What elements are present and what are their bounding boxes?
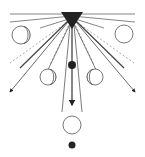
moon-phase-upper-right-icon — [115, 25, 133, 43]
dot-bottom-icon — [69, 142, 76, 149]
dot-middle-icon — [68, 61, 76, 69]
moon-phase-upper-left-icon — [12, 26, 30, 44]
open-circle-bottom-icon — [63, 116, 81, 134]
ray-diagram — [0, 0, 145, 157]
diagram-canvas — [0, 0, 145, 157]
moon-phase-lower-left-icon — [40, 69, 56, 85]
moon-phase-lower-right-icon — [87, 69, 103, 85]
